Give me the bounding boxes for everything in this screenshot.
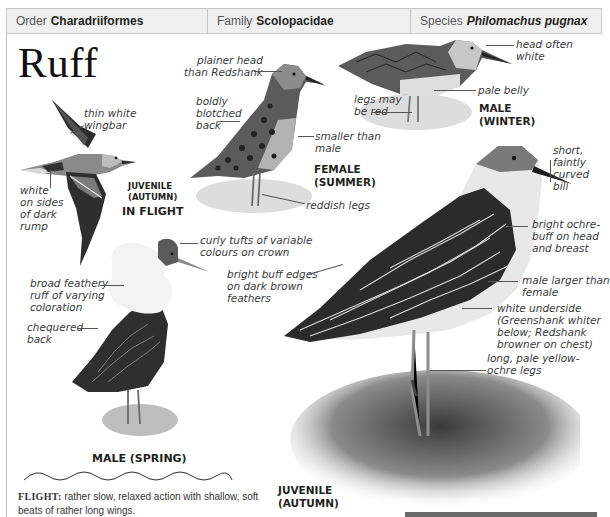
page-border xyxy=(6,8,7,517)
leader-line xyxy=(488,281,518,282)
text-line: bright buff edges xyxy=(227,268,318,280)
annotation-long-pale-legs: long, pale yellow- ochre legs xyxy=(487,352,579,376)
flight-description: FLIGHT: rather slow, relaxed action with… xyxy=(18,490,268,517)
male-spring-illustration xyxy=(68,232,208,442)
leader-line xyxy=(372,112,412,113)
annotation-bright-buff-edges: bright buff edges on dark brown feathers xyxy=(227,268,318,304)
leader-line xyxy=(486,45,514,46)
text-line: curved xyxy=(553,168,589,180)
leader-line xyxy=(78,328,98,329)
leader-line xyxy=(550,160,551,182)
text-line: and breast xyxy=(532,242,600,254)
family-cell: Family Scolopacidae xyxy=(207,9,410,33)
label-in-flight: IN FLIGHT xyxy=(122,205,183,218)
text-line: male larger than xyxy=(522,274,610,286)
text-line: pale belly xyxy=(478,84,529,96)
text-line: faintly xyxy=(553,156,589,168)
species-value: Philomachus pugnax xyxy=(467,14,588,28)
text-line: buff on head xyxy=(532,230,600,242)
flight-label: FLIGHT: xyxy=(18,491,62,502)
order-label: Order xyxy=(16,14,47,28)
leader-line xyxy=(462,308,492,309)
annotation-short-curved-bill: short, faintly curved bill xyxy=(553,144,589,192)
order-cell: Order Charadriiformes xyxy=(7,9,207,33)
text-line: rump xyxy=(20,220,63,232)
text-line: JUVENILE xyxy=(278,484,339,497)
leader-line xyxy=(180,243,198,244)
annotation-thin-white-wingbar: thin white wingbar xyxy=(84,107,136,131)
annotation-plainer-head: plainer head than Redshank xyxy=(184,54,263,78)
text-line: ruff of varying xyxy=(30,289,108,301)
text-line: white xyxy=(20,184,63,196)
bottom-image-strip xyxy=(405,512,597,517)
text-line: MALE xyxy=(479,102,535,115)
text-line: (AUTUMN) xyxy=(278,497,339,510)
annotation-male-larger: male larger than female xyxy=(522,274,610,298)
leader-line xyxy=(298,136,314,137)
label-juvenile-autumn: JUVENILE (AUTUMN) xyxy=(278,484,339,510)
leader-line xyxy=(506,226,528,227)
text-line: boldly xyxy=(196,95,242,107)
text-line: blotched xyxy=(196,107,242,119)
annotation-pale-belly: pale belly xyxy=(478,84,529,96)
family-label: Family xyxy=(217,14,252,28)
text-line: be red xyxy=(354,105,402,117)
text-line: on sides xyxy=(20,196,63,208)
leader-line xyxy=(254,71,282,72)
text-line: short, xyxy=(553,144,589,156)
text-line: (Greenshank whiter xyxy=(497,314,601,326)
text-line: broad feathery xyxy=(30,277,108,289)
text-line: of dark xyxy=(20,208,63,220)
leader-line xyxy=(218,121,240,122)
species-label: Species xyxy=(420,14,463,28)
text-line: head often xyxy=(516,38,573,50)
text-line: ochre legs xyxy=(487,364,579,376)
text-line: bright ochre- xyxy=(532,218,600,230)
text-line: female xyxy=(522,286,610,298)
label-juvenile-autumn-flight: JUVENILE (AUTUMN) xyxy=(128,181,177,203)
text-line: JUVENILE xyxy=(128,181,177,192)
annotation-chequered-back: chequered back xyxy=(27,321,83,345)
species-cell: Species Philomachus pugnax xyxy=(410,9,601,33)
leader-line xyxy=(50,170,51,188)
text-line: (WINTER) xyxy=(479,115,535,128)
text-line: below; Redshank xyxy=(497,326,601,338)
annotation-boldly-blotched-back: boldly blotched back xyxy=(196,95,242,131)
text-line: bill xyxy=(553,180,589,192)
leader-line xyxy=(434,90,476,91)
order-value: Charadriiformes xyxy=(51,14,144,28)
text-line: long, pale yellow- xyxy=(487,352,579,364)
text-line: legs may xyxy=(354,93,402,105)
taxonomy-header: Order Charadriiformes Family Scolopacida… xyxy=(6,8,602,34)
label-male-winter: MALE (WINTER) xyxy=(479,102,535,128)
text-line: coloration xyxy=(30,301,108,313)
annotation-white-rump: white on sides of dark rump xyxy=(20,184,63,232)
text-line: browner on chest) xyxy=(497,338,601,350)
label-male-spring: MALE (SPRING) xyxy=(92,452,187,465)
annotation-bright-ochre-buff: bright ochre- buff on head and breast xyxy=(532,218,600,254)
annotation-head-often-white: head often white xyxy=(516,38,573,62)
text-line: than Redshank xyxy=(184,66,263,78)
leader-line xyxy=(100,285,124,286)
text-line: back xyxy=(27,333,83,345)
text-line: feathers xyxy=(227,292,318,304)
text-line: on dark brown xyxy=(227,280,318,292)
wavy-line-icon xyxy=(22,466,234,486)
annotation-white-underside: white underside (Greenshank whiter below… xyxy=(497,302,601,350)
text-line: chequered xyxy=(27,321,83,333)
text-line: wingbar xyxy=(84,119,136,131)
text-line: plainer head xyxy=(184,54,263,66)
text-line: white xyxy=(516,50,573,62)
annotation-legs-may-be-red: legs may be red xyxy=(354,93,402,117)
text-line: white underside xyxy=(497,302,601,314)
page-title: Ruff xyxy=(18,38,98,87)
annotation-broad-feathery-ruff: broad feathery ruff of varying coloratio… xyxy=(30,277,108,313)
leader-line xyxy=(430,370,486,371)
family-value: Scolopacidae xyxy=(256,14,333,28)
text-line: thin white xyxy=(84,107,136,119)
text-line: (AUTUMN) xyxy=(128,192,177,203)
